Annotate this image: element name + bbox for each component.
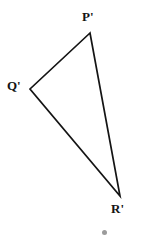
geometry-figure: P' Q' R' — [0, 0, 143, 242]
vertex-label-p-prime: P' — [82, 10, 94, 23]
triangle-outline — [30, 33, 120, 196]
vertex-label-q-prime: Q' — [7, 79, 21, 92]
vertex-label-r-prime: R' — [111, 202, 124, 215]
stray-dot-mark — [102, 230, 107, 235]
